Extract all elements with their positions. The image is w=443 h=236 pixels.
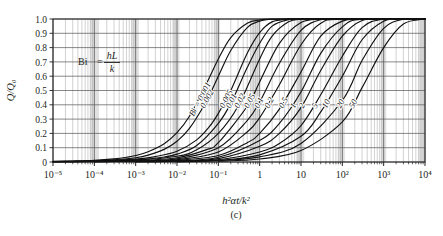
- y-tick-label: 0: [42, 158, 47, 168]
- biot-number-chart: 00.10.20.30.40.50.60.70.80.91.010⁻⁵10⁻⁴1…: [0, 0, 443, 236]
- curve-label-10: 1010: [320, 97, 333, 110]
- y-tick-label: 0.9: [35, 29, 47, 39]
- x-tick-label: 1: [257, 169, 262, 180]
- curve-label-50: 5050: [346, 97, 359, 110]
- y-tick-label: 0.6: [35, 72, 47, 82]
- annotation-equals: =: [97, 56, 103, 67]
- x-tick-label: 10⁻⁴: [85, 169, 104, 180]
- annotation-bi-symbol: Bi: [78, 56, 88, 67]
- x-tick-label: 10: [296, 169, 306, 180]
- curve-label-text: 50: [346, 97, 359, 110]
- y-axis-title: Q/Q₀: [5, 79, 16, 101]
- y-tick-label: 0.2: [35, 129, 47, 139]
- y-tick-label: 0.3: [35, 115, 47, 125]
- y-tick-label: 0.8: [35, 43, 47, 53]
- y-tick-label: 0.4: [35, 100, 47, 110]
- curve-label-text: 10: [320, 97, 333, 110]
- x-axis-title: h²αt/k²: [222, 195, 250, 206]
- panel-label: (c): [230, 209, 241, 221]
- x-tick-label: 10⁻⁵: [44, 169, 63, 180]
- curve-label-text: 0.2: [262, 95, 276, 110]
- y-tick-label: 0.7: [35, 58, 47, 68]
- x-tick-label: 10⁴: [418, 169, 432, 180]
- curve-label-0p2: 0.20.2: [262, 95, 276, 110]
- figure-panel-c: 00.10.20.30.40.50.60.70.80.91.010⁻⁵10⁻⁴1…: [0, 0, 443, 236]
- y-tick-label: 0.5: [35, 86, 47, 96]
- annotation-denominator: k: [110, 63, 115, 74]
- curve-bi-50: [218, 19, 425, 161]
- y-tick-label: 0.1: [35, 143, 47, 153]
- x-tick-label: 10²: [336, 169, 349, 180]
- x-tick-label: 10⁻²: [168, 169, 186, 180]
- y-tick-label: 1.0: [35, 15, 47, 25]
- x-tick-label: 10³: [377, 169, 390, 180]
- x-tick-label: 10⁻¹: [209, 169, 227, 180]
- x-tick-label: 10⁻³: [127, 169, 145, 180]
- annotation-numerator: hL: [107, 50, 118, 61]
